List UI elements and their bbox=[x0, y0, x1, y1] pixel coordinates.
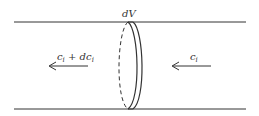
pipe-volume-element-diagram: dV ci + dci ci bbox=[0, 0, 259, 116]
disk-front-face-1 bbox=[128, 22, 137, 109]
volume-label: dV bbox=[122, 8, 137, 19]
inflow-label: ci bbox=[190, 51, 198, 64]
disk-hidden-edge bbox=[119, 22, 128, 109]
outflow-label: ci + dci bbox=[57, 51, 94, 64]
